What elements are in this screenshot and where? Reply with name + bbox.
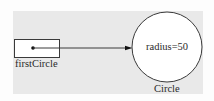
object-field-label: radius=50	[146, 42, 188, 53]
variable-name-label: firstCircle	[15, 59, 58, 70]
diagram-canvas: firstCircle radius=50 Circle	[0, 0, 214, 101]
object-class-label: Circle	[154, 84, 180, 95]
arrowhead-icon	[125, 46, 133, 50]
